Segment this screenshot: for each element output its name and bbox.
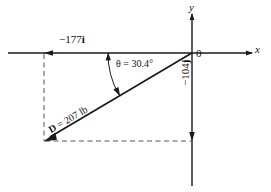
y-component-value: −104	[179, 63, 191, 86]
y-axis-label: y	[189, 2, 194, 13]
angle-arc-arrowhead-bottom	[113, 87, 120, 96]
x-component-arrowhead	[44, 50, 53, 56]
i-unit-vector-label: i	[82, 33, 85, 45]
x-axis-label: x	[255, 44, 260, 55]
vector-diagram-canvas	[0, 0, 271, 192]
y-axis-arrowhead	[190, 13, 195, 20]
j-unit-vector-label: j	[179, 60, 191, 64]
x-component-value: −177	[59, 33, 82, 45]
resultant-vector-arrowhead	[44, 133, 58, 142]
x-axis-arrowhead	[246, 51, 253, 56]
origin-label: 0	[196, 48, 202, 59]
angle-label: θ = 30.4°	[116, 59, 153, 69]
x-component-label: −177i	[59, 34, 85, 45]
vector-diagram-figure: x y 0 −177i θ = 30.4° −104j D = 207 lb	[0, 0, 271, 192]
y-component-label: −104j	[180, 60, 191, 86]
y-component-arrowhead	[189, 132, 195, 141]
